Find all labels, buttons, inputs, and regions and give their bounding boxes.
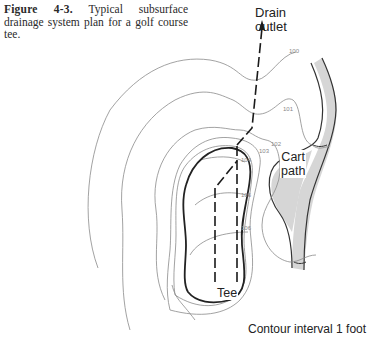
contour-label-101: 101 bbox=[283, 106, 293, 112]
contour-106 bbox=[190, 232, 248, 255]
cart-path-line1: Cart bbox=[281, 150, 305, 164]
cart-path-line2: path bbox=[281, 164, 305, 178]
contour-lower-loop bbox=[172, 285, 195, 320]
contour-label-102: 102 bbox=[271, 141, 281, 147]
contour-label-103: 103 bbox=[259, 148, 269, 154]
drainage-plan-diagram bbox=[0, 0, 379, 347]
contour-label-104: 104 bbox=[241, 157, 251, 163]
drain-lateral-left bbox=[215, 161, 237, 282]
contour-interval-label: Contour interval 1 foot bbox=[248, 322, 366, 336]
contour-label-100: 100 bbox=[289, 48, 299, 54]
drain-lines bbox=[215, 28, 262, 282]
drain-outlet-line2: outlet bbox=[255, 20, 287, 34]
tee-label: Tee bbox=[216, 286, 238, 300]
contour-label-106: 106 bbox=[241, 225, 251, 231]
drain-outlet-label: Drain outlet bbox=[255, 6, 287, 34]
contour-104 bbox=[200, 157, 245, 162]
cart-path-label: Cart path bbox=[280, 150, 306, 178]
contour-100 bbox=[88, 52, 296, 268]
drain-main bbox=[237, 28, 262, 145]
contour-label-105: 105 bbox=[241, 192, 251, 198]
drain-outlet-line1: Drain bbox=[255, 6, 287, 20]
